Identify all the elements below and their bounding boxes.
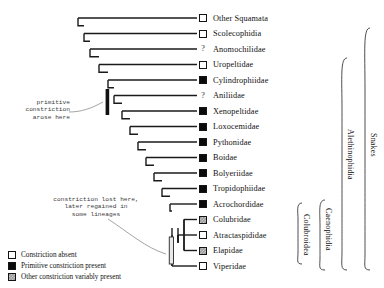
- legend-swatch-variable: [8, 273, 16, 281]
- taxon-label-viperidae: Viperidae: [213, 262, 246, 271]
- taxon-label-anomochilidae: Anomochilidae: [213, 45, 265, 54]
- legend-swatch-primitive: [8, 262, 16, 270]
- phylogeny-figure: Other Squamata Scolecophidia ? Anomochil…: [0, 0, 384, 288]
- taxon-label-scolecophidia: Scolecophidia: [213, 29, 261, 38]
- clade-label-alethinophidia: Alethinophidia: [346, 129, 355, 180]
- annotation-primitive-gain-line-2: constriction: [8, 106, 70, 113]
- annotation-primitive-gain: primitive constriction arose here: [8, 99, 70, 121]
- annotation-constriction-loss-line-1: constriction lost here,: [42, 196, 150, 203]
- clade-label-caenophidia: Caenophidia: [324, 208, 333, 251]
- state-box-boidae: [199, 154, 207, 162]
- legend-label-absent: Constriction absent: [21, 250, 77, 260]
- state-unknown-anomochilidae: ?: [199, 45, 207, 53]
- taxon-label-bolyeriidae: Bolyeriidae: [213, 169, 253, 178]
- taxon-label-other-squamata: Other Squamata: [213, 14, 268, 23]
- taxon-label-acrochordidae: Acrochordidae: [213, 200, 264, 209]
- taxon-label-uropeltidae: Uropeltidae: [213, 60, 253, 69]
- state-box-acrochordidae: [199, 200, 207, 208]
- state-box-bolyeriidae: [199, 169, 207, 177]
- legend-swatch-absent: [8, 251, 16, 259]
- taxon-label-colubridae: Colubridae: [213, 215, 251, 224]
- taxon-label-elapidae: Elapidae: [213, 246, 243, 255]
- taxon-label-boidae: Boidae: [213, 153, 237, 162]
- annotation-constriction-loss-line-2: later regained in: [42, 203, 150, 210]
- state-box-colubridae: [199, 216, 207, 224]
- taxon-label-xenopeltidae: Xenopeltidae: [213, 107, 258, 116]
- clade-label-snakes: Snakes: [369, 133, 378, 157]
- taxon-label-aniliidae: Aniliidae: [213, 91, 245, 100]
- legend-label-primitive: Primitive constriction present: [21, 261, 106, 271]
- legend-label-variable: Other constriction variably present: [21, 272, 121, 282]
- taxon-label-loxocemidae: Loxocemidae: [213, 122, 259, 131]
- state-box-loxocemidae: [199, 123, 207, 131]
- state-box-cylindrophiidae: [199, 76, 207, 84]
- annotation-constriction-loss: constriction lost here, later regained i…: [42, 196, 150, 218]
- state-box-viperidae: [199, 262, 207, 270]
- state-box-xenopeltidae: [199, 107, 207, 115]
- state-box-pythonidae: [199, 138, 207, 146]
- state-box-tropidophiidae: [199, 185, 207, 193]
- annotation-primitive-gain-line-3: arose here: [8, 114, 70, 121]
- constriction-loss-marker: [169, 237, 173, 264]
- primitive-gain-marker: [106, 89, 110, 115]
- annotation-primitive-gain-line-1: primitive: [8, 99, 70, 106]
- constriction-loss-leader: [108, 219, 166, 254]
- annotation-constriction-loss-line-3: some lineages: [42, 211, 150, 218]
- taxon-label-atractaspididae: Atractaspididae: [213, 231, 267, 240]
- state-box-elapidae: [199, 247, 207, 255]
- taxon-label-cylindrophiidae: Cylindrophiidae: [213, 76, 268, 85]
- taxon-label-tropidophiidae: Tropidophiidae: [213, 184, 265, 193]
- clade-label-colubroidea: Colubroidea: [302, 214, 311, 256]
- primitive-gain-leader: [69, 102, 103, 112]
- state-unknown-aniliidae: ?: [199, 92, 207, 100]
- taxon-label-pythonidae: Pythonidae: [213, 138, 251, 147]
- state-box-scolecophidia: [199, 30, 207, 38]
- state-box-other-squamata: [199, 14, 207, 22]
- state-box-atractaspididae: [199, 231, 207, 239]
- state-box-uropeltidae: [199, 61, 207, 69]
